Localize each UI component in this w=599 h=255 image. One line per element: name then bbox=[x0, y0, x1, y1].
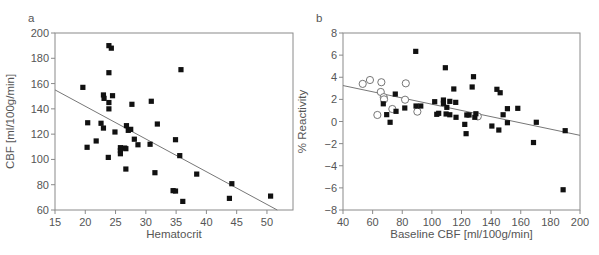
x-tick-label: 100 bbox=[423, 216, 441, 228]
square-marker bbox=[98, 121, 103, 126]
y-tick-label: 100 bbox=[31, 153, 49, 165]
y-axis-label: CBF [ml/100g/min] bbox=[4, 74, 16, 169]
x-tick-label: 60 bbox=[367, 216, 379, 228]
panel-label: a bbox=[28, 12, 35, 24]
square-marker bbox=[229, 181, 234, 186]
x-tick-label: 160 bbox=[512, 216, 530, 228]
x-tick-label: 40 bbox=[200, 216, 212, 228]
series-patients bbox=[80, 43, 273, 204]
x-tick-label: 35 bbox=[170, 216, 182, 228]
open-circle-marker bbox=[378, 79, 385, 86]
x-tick-label: 140 bbox=[482, 216, 500, 228]
square-marker bbox=[447, 99, 452, 104]
y-tick-label: −8 bbox=[324, 204, 337, 216]
square-marker bbox=[561, 187, 566, 192]
square-marker bbox=[505, 120, 510, 125]
square-marker bbox=[177, 153, 182, 158]
square-marker bbox=[388, 120, 393, 125]
x-tick-label: 120 bbox=[452, 216, 470, 228]
square-marker bbox=[471, 74, 476, 79]
square-marker bbox=[194, 171, 199, 176]
y-tick-label: 180 bbox=[31, 52, 49, 64]
y-tick-label: 80 bbox=[37, 179, 49, 191]
x-axis-label: Hematocrit bbox=[146, 228, 202, 240]
chart-panel-b: b−8−6−4−202468406080100120140160180200Ba… bbox=[296, 12, 589, 240]
y-tick-label: −6 bbox=[324, 182, 337, 194]
square-marker bbox=[84, 145, 89, 150]
square-marker bbox=[453, 115, 458, 120]
x-tick-label: 30 bbox=[140, 216, 152, 228]
square-marker bbox=[94, 138, 99, 143]
square-marker bbox=[112, 129, 117, 134]
x-tick-label: 15 bbox=[49, 216, 61, 228]
y-tick-label: 60 bbox=[37, 204, 49, 216]
square-marker bbox=[498, 90, 503, 95]
square-marker bbox=[501, 112, 506, 117]
square-marker bbox=[85, 120, 90, 125]
y-tick-label: 160 bbox=[31, 78, 49, 90]
x-tick-label: 40 bbox=[337, 216, 349, 228]
open-circle-marker bbox=[414, 108, 421, 115]
square-marker bbox=[155, 121, 160, 126]
square-marker bbox=[152, 170, 157, 175]
square-marker bbox=[393, 109, 398, 114]
square-marker bbox=[106, 106, 111, 111]
square-marker bbox=[413, 49, 418, 54]
y-tick-label: 140 bbox=[31, 103, 49, 115]
square-marker bbox=[473, 111, 478, 116]
square-marker bbox=[402, 105, 407, 110]
square-marker bbox=[496, 127, 501, 132]
square-marker bbox=[180, 199, 185, 204]
square-marker bbox=[128, 127, 133, 132]
square-marker bbox=[123, 146, 128, 151]
square-marker bbox=[149, 99, 154, 104]
plot-frame bbox=[343, 33, 580, 210]
x-tick-label: 200 bbox=[571, 216, 589, 228]
x-tick-label: 50 bbox=[261, 216, 273, 228]
square-marker bbox=[447, 112, 452, 117]
x-tick-label: 20 bbox=[79, 216, 91, 228]
square-marker bbox=[463, 131, 468, 136]
square-marker bbox=[101, 96, 106, 101]
square-marker bbox=[515, 106, 520, 111]
square-marker bbox=[227, 196, 232, 201]
y-tick-label: 0 bbox=[331, 116, 337, 128]
square-marker bbox=[106, 70, 111, 75]
square-marker bbox=[453, 100, 458, 105]
square-marker bbox=[109, 46, 114, 51]
square-marker bbox=[129, 102, 134, 107]
open-circle-marker bbox=[401, 96, 408, 103]
x-tick-label: 25 bbox=[109, 216, 121, 228]
square-marker bbox=[106, 155, 111, 160]
square-marker bbox=[443, 65, 448, 70]
square-marker bbox=[413, 103, 418, 108]
x-tick-label: 80 bbox=[396, 216, 408, 228]
square-marker bbox=[101, 125, 106, 130]
y-tick-label: 120 bbox=[31, 128, 49, 140]
x-tick-label: 45 bbox=[231, 216, 243, 228]
regression-line bbox=[55, 90, 277, 210]
square-marker bbox=[173, 188, 178, 193]
square-marker bbox=[110, 93, 115, 98]
square-marker bbox=[135, 142, 140, 147]
square-marker bbox=[489, 123, 494, 128]
square-marker bbox=[173, 137, 178, 142]
square-marker bbox=[563, 128, 568, 133]
open-circle-marker bbox=[402, 80, 409, 87]
open-circle-marker bbox=[374, 111, 381, 118]
square-marker bbox=[436, 111, 441, 116]
square-marker bbox=[118, 151, 123, 156]
square-marker bbox=[381, 101, 386, 106]
series-open-circles bbox=[359, 76, 481, 120]
y-tick-label: −2 bbox=[324, 138, 337, 150]
square-marker bbox=[451, 86, 456, 91]
square-marker bbox=[393, 91, 398, 96]
square-marker bbox=[505, 106, 510, 111]
square-marker bbox=[470, 84, 475, 89]
x-axis-label: Baseline CBF [ml/100g/min] bbox=[390, 228, 533, 240]
x-tick-label: 180 bbox=[541, 216, 559, 228]
square-marker bbox=[534, 120, 539, 125]
panel-label: b bbox=[316, 12, 322, 24]
square-marker bbox=[123, 166, 128, 171]
plot-frame bbox=[55, 33, 293, 210]
